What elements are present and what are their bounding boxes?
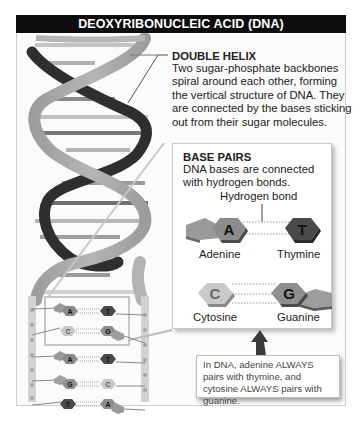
hydrogen-bond-label: Hydrogen bond [220, 190, 297, 202]
svg-text:A: A [224, 221, 235, 238]
pointer-arrow-icon [251, 330, 268, 356]
pairing-rule-note: In DNA, adenine ALWAYS pairs with thymin… [196, 355, 340, 398]
svg-text:C: C [210, 285, 221, 302]
guanine-label: Guanine [277, 311, 320, 323]
cytosine-label: Cytosine [193, 311, 237, 323]
svg-text:G: G [283, 285, 295, 302]
adenine-label: Adenine [199, 248, 240, 260]
svg-text:T: T [297, 221, 306, 238]
thymine-label: Thymine [277, 248, 320, 260]
